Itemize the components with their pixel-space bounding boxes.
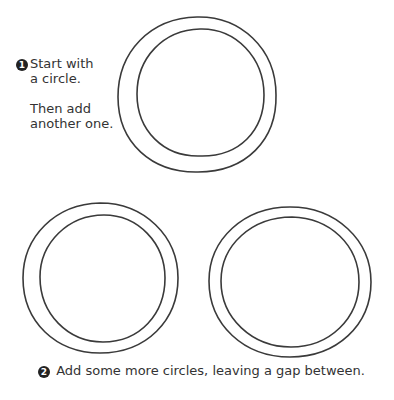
ring-bottom-right-outer (209, 207, 371, 357)
step-2-text: Add some more circles, leaving a gap bet… (56, 363, 365, 378)
ring-bottom-right-inner (221, 217, 359, 347)
ring-top-outer (118, 17, 276, 172)
ring-bottom-right (209, 207, 371, 357)
step-1-line-4: another one. (16, 116, 113, 131)
step-1-caption: 1Start with a circle. Then add another o… (16, 56, 113, 131)
step-2-caption: 2 Add some more circles, leaving a gap b… (38, 363, 365, 378)
step-1-gap (16, 86, 113, 101)
ring-bottom-left (23, 203, 178, 353)
ring-top (118, 17, 276, 172)
step-1-line-1: 1Start with (16, 56, 113, 71)
step-2-number-badge: 2 (38, 366, 50, 378)
step-1-number-badge: 1 (16, 59, 28, 71)
ring-bottom-left-outer (23, 203, 178, 353)
step-1-line-2: a circle. (16, 71, 113, 86)
step-1-text-1: Start with (30, 56, 93, 71)
ring-bottom-left-inner (40, 215, 165, 342)
ring-top-inner (137, 29, 264, 156)
step-1-line-3: Then add (16, 101, 113, 116)
